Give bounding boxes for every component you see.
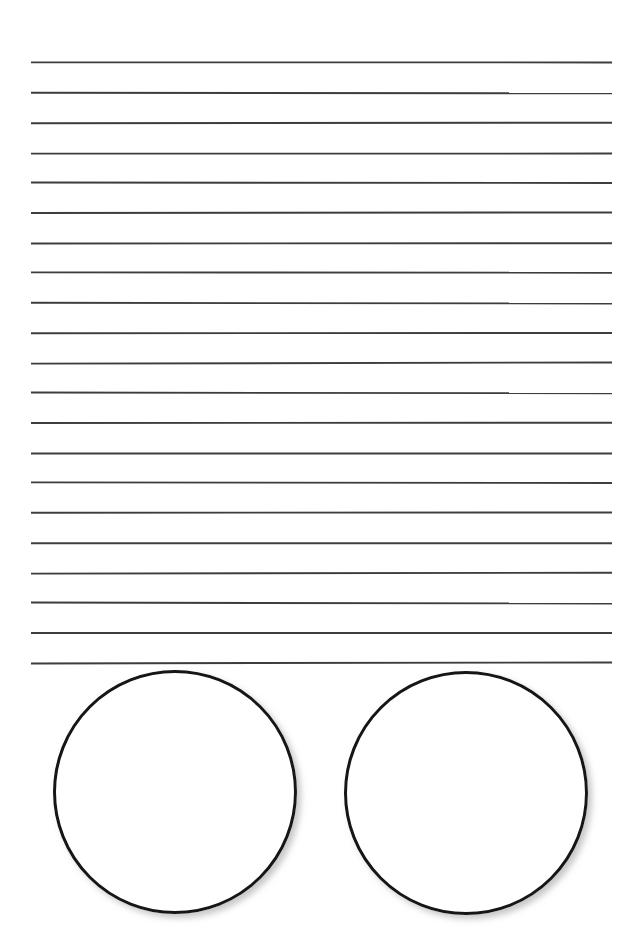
ruled-line <box>31 303 612 304</box>
ruled-line <box>31 123 612 124</box>
ruled-line <box>31 482 612 483</box>
ruled-line <box>31 393 612 394</box>
ruled-line <box>31 212 612 213</box>
left-answer-circle[interactable] <box>55 672 296 913</box>
ruled-line <box>31 662 612 663</box>
worksheet-canvas <box>0 0 642 942</box>
ruled-line <box>31 93 612 94</box>
worksheet-page <box>0 0 642 942</box>
right-answer-circle[interactable] <box>346 673 587 914</box>
ruled-line <box>31 362 612 363</box>
ruled-line <box>31 573 612 574</box>
ruled-line <box>31 603 612 604</box>
